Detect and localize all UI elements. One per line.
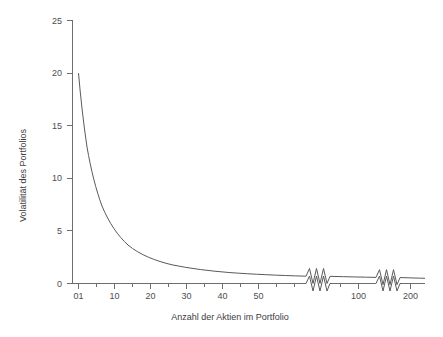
data-curve-segment-2 xyxy=(332,276,376,277)
y-tick-label-10: 10 xyxy=(52,173,62,183)
y-tick-label-5: 5 xyxy=(57,226,62,236)
x-tick-label-01: 01 xyxy=(73,291,83,301)
x-tick-label-200: 200 xyxy=(403,291,418,301)
x-tick-label-50: 50 xyxy=(253,291,263,301)
x-tick-label-100: 100 xyxy=(351,291,366,301)
y-tick-label-15: 15 xyxy=(52,121,62,131)
y-tick-label-20: 20 xyxy=(52,68,62,78)
y-tick-label-0: 0 xyxy=(57,279,62,289)
y-axis-tick-labels: 0 5 10 15 20 25 xyxy=(52,16,62,289)
chart-container: 0 5 10 15 20 25 01 xyxy=(0,0,443,337)
data-curve-segment-1 xyxy=(79,73,307,276)
x-axis-tick-labels: 01 10 20 30 40 50 100 200 xyxy=(73,291,418,301)
y-axis-ticks xyxy=(67,21,73,284)
data-curve-segment-3 xyxy=(402,278,425,279)
x-tick-label-20: 20 xyxy=(145,291,155,301)
x-tick-label-10: 10 xyxy=(109,291,119,301)
y-axis-title: Volatilität des Portfolios xyxy=(18,128,28,222)
x-axis-title: Anzahl der Aktien im Portfolio xyxy=(171,312,289,322)
x-axis-ticks xyxy=(79,284,411,290)
volatility-line-chart: 0 5 10 15 20 25 01 xyxy=(0,0,443,337)
y-tick-label-25: 25 xyxy=(52,16,62,26)
x-tick-label-30: 30 xyxy=(181,291,191,301)
x-tick-label-40: 40 xyxy=(217,291,227,301)
